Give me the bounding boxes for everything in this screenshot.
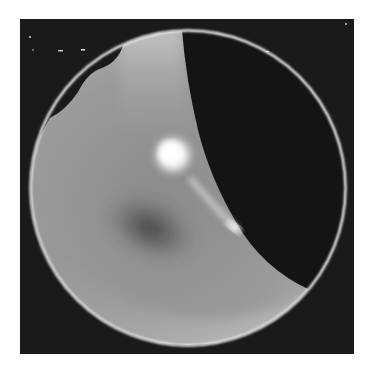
grayscale-circular-image	[0, 0, 370, 372]
